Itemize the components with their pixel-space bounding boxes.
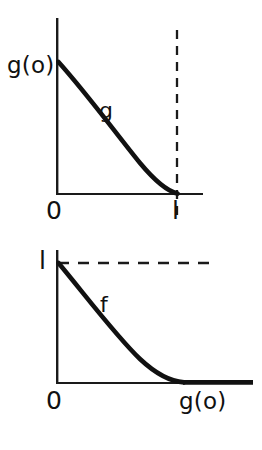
top-chart-graphics	[0, 0, 262, 228]
figure-root: g(o) g 0 l l f 0 g(o)	[0, 0, 262, 450]
bottom-y-axis-label: l	[39, 248, 46, 273]
top-x-origin-label: 0	[46, 198, 62, 223]
chart-panel-bottom: l f 0 g(o)	[0, 228, 262, 450]
bottom-curve-label: f	[100, 294, 108, 316]
top-x-end-label: l	[172, 198, 179, 223]
chart-panel-top: g(o) g 0 l	[0, 0, 262, 228]
bottom-x-end-label: g(o)	[179, 390, 226, 413]
top-curve-g	[59, 62, 178, 194]
bottom-x-origin-label: 0	[46, 388, 62, 413]
bottom-curve-f	[59, 263, 185, 382]
top-curve-label: g	[99, 100, 113, 122]
top-y-axis-label: g(o)	[7, 54, 54, 77]
